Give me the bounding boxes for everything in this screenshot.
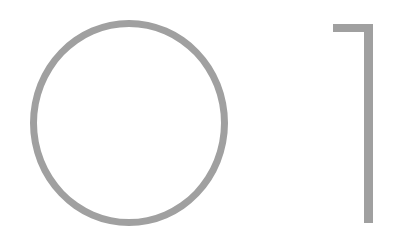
digit-zero xyxy=(30,20,228,226)
digit-one-stem xyxy=(364,24,373,223)
